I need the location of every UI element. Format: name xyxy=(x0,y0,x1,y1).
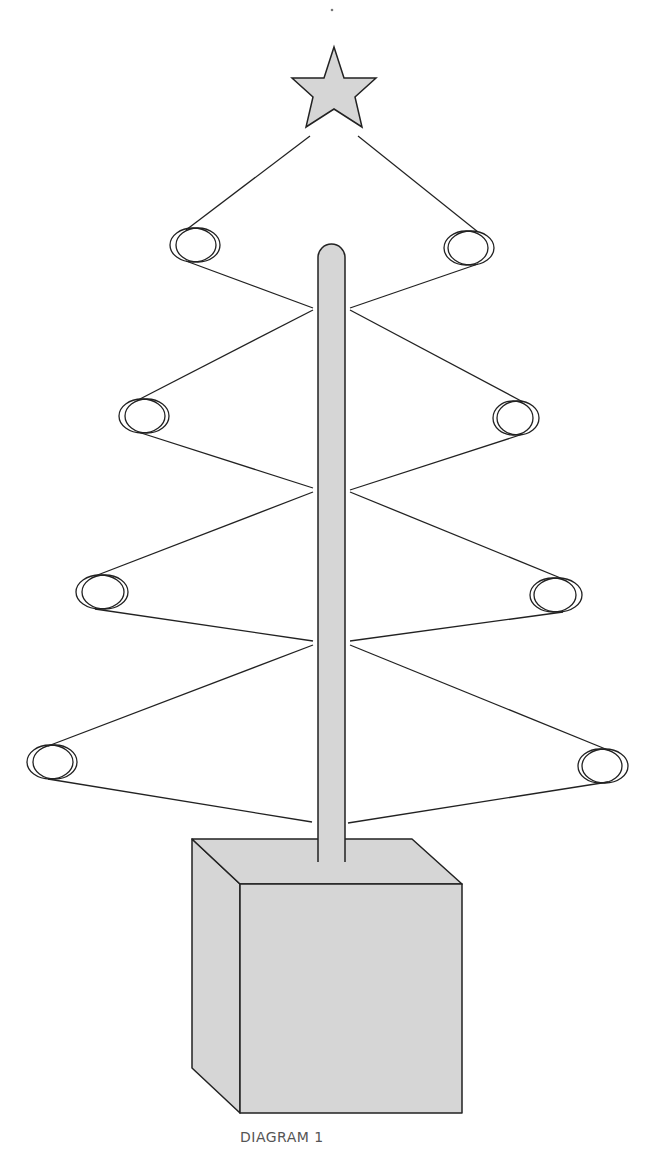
wire-line xyxy=(350,264,478,308)
wire-line xyxy=(348,782,608,823)
ring-right-tier-4 xyxy=(578,749,628,783)
ring-right-tier-3 xyxy=(530,578,582,612)
box-side-face xyxy=(192,839,240,1113)
base-box xyxy=(192,839,462,1113)
wire-line xyxy=(350,434,523,490)
wire-line xyxy=(350,310,523,402)
tree-pole xyxy=(318,244,345,862)
ring-left-tier-3 xyxy=(76,575,128,609)
ring-left-tier-1 xyxy=(170,228,220,262)
ring-left-tier-2 xyxy=(119,399,169,433)
wire-line xyxy=(358,136,478,232)
wire-line xyxy=(138,310,313,400)
christmas-tree-diagram xyxy=(0,0,658,1173)
wire-line xyxy=(95,609,313,641)
wire-line xyxy=(48,779,312,822)
ring-right-tier-1 xyxy=(444,231,494,265)
box-front-face xyxy=(240,884,462,1113)
pole-shaft xyxy=(318,244,345,862)
speck-mark xyxy=(331,9,334,12)
wire-line xyxy=(350,612,563,641)
wire-line xyxy=(186,136,310,230)
wire-line xyxy=(350,645,608,750)
wire-line xyxy=(48,645,313,746)
wire-line xyxy=(138,432,313,488)
diagram-caption: DIAGRAM 1 xyxy=(240,1129,324,1145)
ring-left-tier-4 xyxy=(27,745,77,779)
ring-right-tier-2 xyxy=(493,401,539,435)
wire-line xyxy=(95,492,313,576)
wire-line xyxy=(186,261,313,308)
star-icon xyxy=(292,47,376,127)
wire-line xyxy=(350,492,563,579)
